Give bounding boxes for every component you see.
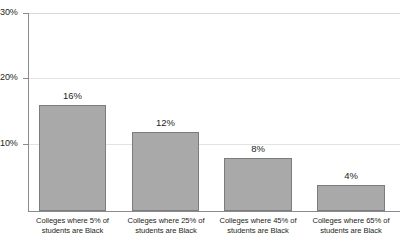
gridline-20 [28,78,400,79]
bar-series-4[interactable] [317,185,385,211]
category-label-4-line1: Colleges where 65% of [305,216,397,226]
plot-area: 30% 20% 10% 16% 12% 8% 4% Colleges where… [0,0,402,248]
category-label-3: Colleges where 45% of students are Black [212,216,304,237]
category-label-1: Colleges where 5% of students are Black [28,216,117,237]
gridline-30 [28,13,400,14]
bar-value-3: 8% [224,144,292,154]
bar-series-3[interactable] [224,158,292,211]
category-label-2: Colleges where 25% of students are Black [120,216,212,237]
category-label-4: Colleges where 65% of students are Black [305,216,397,237]
x-axis-line [28,211,400,212]
category-label-3-line2: students are Black [212,226,304,236]
y-axis-line [28,13,29,212]
bar-value-2: 12% [132,118,199,128]
y-axis-label-20: 20% [0,73,26,82]
category-label-4-line2: students are Black [305,226,397,236]
category-label-1-line2: students are Black [28,226,117,236]
bar-series-2[interactable] [132,132,199,211]
category-label-2-line1: Colleges where 25% of [120,216,212,226]
y-axis-label-30: 30% [0,8,26,17]
bar-chart: 30% 20% 10% 16% 12% 8% 4% Colleges where… [0,0,402,248]
bar-value-4: 4% [317,171,385,181]
bar-value-1: 16% [39,91,106,101]
category-label-2-line2: students are Black [120,226,212,236]
y-axis-label-10: 10% [0,139,26,148]
category-label-3-line1: Colleges where 45% of [212,216,304,226]
category-label-1-line1: Colleges where 5% of [28,216,117,226]
bar-series-1[interactable] [39,105,106,211]
